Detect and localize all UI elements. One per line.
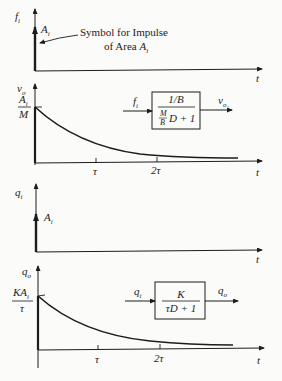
vo-x-label: t bbox=[256, 166, 260, 178]
fi-impulse-label: Ai bbox=[40, 23, 50, 38]
qo-y-label: qo bbox=[22, 265, 32, 280]
qi-y-label: qi bbox=[15, 186, 23, 201]
qo-x-label: t bbox=[257, 354, 261, 366]
qo-initial-tick bbox=[38, 295, 45, 296]
qo-block-input-label: qi bbox=[134, 285, 142, 300]
vo-y0-numerator: Ai bbox=[18, 93, 28, 108]
vo-tick-label-tau: τ bbox=[93, 165, 98, 177]
impulse-response-diagram: fi Ai Symbol for Impulse of Area Ai t τ … bbox=[0, 0, 282, 381]
annotation-pointer-arrow bbox=[40, 35, 78, 43]
qi-impulse-label: Ai bbox=[43, 211, 53, 226]
vo-block-output-label: vo₁ bbox=[218, 94, 229, 109]
vo-y0-denominator: M bbox=[18, 108, 29, 120]
panel-qo: τ 2τ t qo KAi τ qi K τD + 1 qo bbox=[12, 265, 264, 368]
annotation-line1: Symbol for Impulse bbox=[80, 26, 168, 38]
qo-decay-curve bbox=[38, 296, 233, 345]
qo-x-axis bbox=[38, 348, 264, 350]
qo-y0-denominator: τ bbox=[20, 302, 25, 314]
vo-block-numerator: 1/B bbox=[168, 93, 184, 105]
qo-transfer-block: qi K τD + 1 qo bbox=[125, 282, 238, 319]
qo-tick-label-2tau: 2τ bbox=[154, 352, 165, 364]
vo-x-axis bbox=[35, 161, 262, 163]
qo-block-numerator: K bbox=[176, 288, 185, 300]
vo-decay-curve bbox=[35, 107, 238, 158]
vo-block-den-frac-num: M bbox=[159, 109, 168, 118]
fi-x-label: t bbox=[256, 72, 260, 84]
qi-x-axis bbox=[36, 250, 262, 252]
panel-qi: qi Ai t bbox=[15, 184, 262, 265]
vo-block-input-label: fi bbox=[133, 95, 138, 110]
panel-vo: τ 2τ t vo Ai M fi 1/B M B D + 1 vo₁ bbox=[17, 82, 262, 178]
qo-tick-label-tau: τ bbox=[95, 353, 100, 365]
qo-y0-numerator: KAi bbox=[12, 286, 29, 301]
vo-transfer-block: fi 1/B M B D + 1 vo₁ bbox=[123, 92, 232, 129]
fi-x-axis bbox=[35, 69, 262, 71]
qo-block-output-label: qo bbox=[218, 284, 228, 299]
annotation-line2: of Area Ai bbox=[104, 40, 148, 55]
fi-y-label: fi bbox=[15, 10, 20, 25]
vo-tick-label-2tau: 2τ bbox=[151, 164, 162, 176]
qi-x-label: t bbox=[256, 253, 260, 265]
panel-fi: fi Ai Symbol for Impulse of Area Ai t bbox=[15, 9, 262, 84]
vo-block-den-rest: D + 1 bbox=[168, 112, 195, 124]
qo-block-denominator: τD + 1 bbox=[166, 302, 196, 314]
vo-block-den-frac-den: B bbox=[160, 118, 165, 127]
